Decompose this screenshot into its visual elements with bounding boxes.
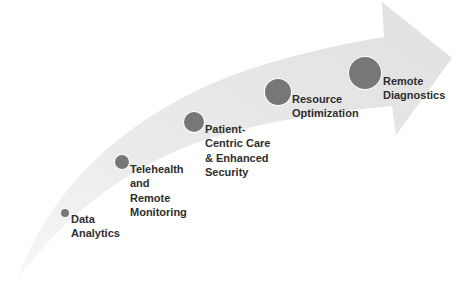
milestone-dot-resource-optimization bbox=[265, 79, 291, 105]
milestone-label-remote-diagnostics: Remote Diagnostics bbox=[383, 74, 445, 103]
roadmap-diagram: Data Analytics Telehealth and Remote Mon… bbox=[0, 0, 475, 292]
label-line: Data bbox=[71, 212, 120, 226]
milestone-dot-telehealth bbox=[115, 155, 129, 169]
label-line: Diagnostics bbox=[383, 88, 445, 102]
milestone-dot-patient-centric-care bbox=[184, 112, 204, 132]
milestone-dot-remote-diagnostics bbox=[349, 57, 381, 89]
label-line: and bbox=[130, 176, 187, 190]
milestone-label-telehealth: Telehealth and Remote Monitoring bbox=[130, 162, 187, 220]
label-line: Remote bbox=[383, 74, 445, 88]
milestone-label-data-analytics: Data Analytics bbox=[71, 212, 120, 241]
label-line: Resource bbox=[292, 92, 359, 106]
label-line: Monitoring bbox=[130, 205, 187, 219]
label-line: Analytics bbox=[71, 226, 120, 240]
milestone-dot-data-analytics bbox=[61, 209, 69, 217]
milestone-label-patient-centric-care: Patient- Centric Care & Enhanced Securit… bbox=[205, 122, 270, 180]
label-line: Remote bbox=[130, 191, 187, 205]
label-line: Telehealth bbox=[130, 162, 187, 176]
label-line: Security bbox=[205, 165, 270, 179]
milestone-label-resource-optimization: Resource Optimization bbox=[292, 92, 359, 121]
label-line: Centric Care bbox=[205, 136, 270, 150]
label-line: Patient- bbox=[205, 122, 270, 136]
label-line: & Enhanced bbox=[205, 151, 270, 165]
label-line: Optimization bbox=[292, 106, 359, 120]
